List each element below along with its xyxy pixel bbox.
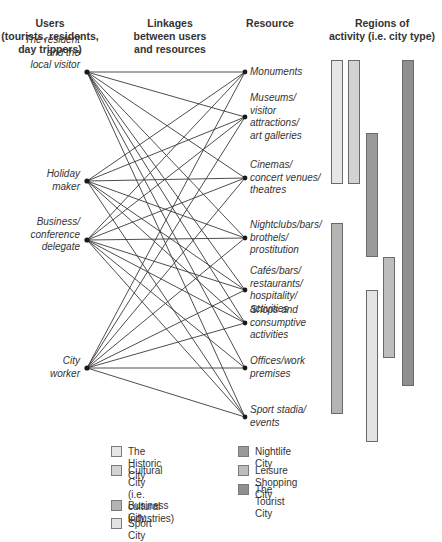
resource-label: Monuments: [250, 66, 330, 79]
linkage-line: [87, 368, 245, 417]
resource-node: [243, 288, 248, 293]
resource-label: Cinemas/ concert venues/ theatres: [250, 159, 330, 197]
resource-node: [243, 366, 248, 371]
region-bar: [331, 60, 343, 184]
region-bar: [366, 290, 378, 442]
region-bar: [331, 223, 343, 414]
legend-item: Sport City: [111, 518, 152, 542]
linkage-line: [87, 178, 245, 368]
resource-node: [243, 415, 248, 420]
legend-label: The Tourist City: [255, 484, 284, 520]
resource-label: Nightclubs/bars/ brothels/ prostitution: [250, 219, 330, 257]
legend-swatch: [111, 446, 122, 457]
legend-swatch: [111, 465, 122, 476]
user-label: Business/ conference delegate: [0, 216, 80, 254]
user-node: [84, 365, 89, 370]
user-node: [84, 69, 89, 74]
linkage-line: [87, 290, 245, 368]
resource-label: Museums/ visitor attractions/ art galler…: [250, 92, 330, 142]
legend-swatch: [111, 500, 122, 511]
user-label: City worker: [0, 355, 80, 380]
legend-swatch: [238, 484, 249, 495]
linkage-line: [87, 238, 245, 240]
region-bar: [366, 133, 378, 257]
resource-label: Shops and consumptive activities: [250, 304, 330, 342]
resource-node: [243, 176, 248, 181]
legend-label: Sport City: [128, 518, 152, 542]
legend-swatch: [111, 518, 122, 529]
resource-node: [243, 321, 248, 326]
resource-label: Sport stadia/ events: [250, 404, 330, 429]
region-bar: [402, 60, 414, 386]
linkage-line: [87, 240, 245, 290]
linkage-line: [87, 181, 245, 238]
linkage-line: [87, 181, 245, 417]
user-label: Holiday maker: [0, 168, 80, 193]
user-node: [84, 237, 89, 242]
region-bar: [348, 60, 360, 184]
resource-node: [243, 115, 248, 120]
resource-node: [243, 236, 248, 241]
user-node: [84, 178, 89, 183]
legend-swatch: [238, 465, 249, 476]
linkage-line: [87, 178, 245, 240]
legend-swatch: [238, 446, 249, 457]
resource-label: Offices/work premises: [250, 355, 330, 380]
user-label: The resident and the local visitor: [0, 34, 80, 72]
resource-node: [243, 70, 248, 75]
linkage-line: [87, 72, 245, 417]
legend-item: The Tourist City: [238, 484, 284, 520]
region-bar: [383, 257, 395, 358]
